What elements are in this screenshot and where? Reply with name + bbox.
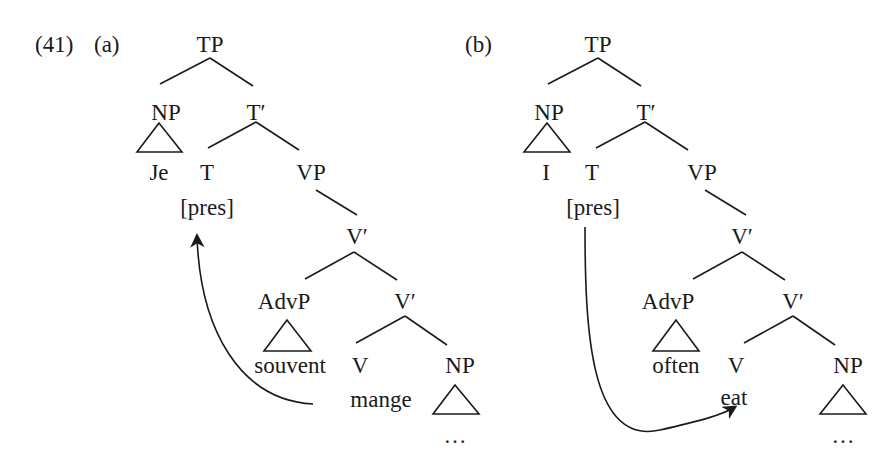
- tree-a-triangle-obj: [433, 385, 479, 414]
- tree-b-edge-vbar-v: [744, 316, 793, 343]
- tree-b: (b) TP NP I T′ T [pres] VP V′ AdvP often…: [465, 32, 866, 448]
- tree-b-node-v: V: [728, 353, 745, 378]
- tree-a-edge-vbar-vbar: [354, 252, 397, 280]
- tree-b-edge-vbar-vbar: [742, 252, 785, 280]
- tree-b-leaf-tense: [pres]: [566, 195, 620, 220]
- tree-a-node-np-subj: NP: [151, 100, 180, 125]
- tree-a-node-vbar-lower: V′: [394, 289, 416, 314]
- tree-a-leaf-verb: mange: [350, 387, 411, 412]
- syntax-tree-diagram: (41) (a) TP NP Je T′ T [pres] VP V′ AdvP…: [0, 0, 888, 461]
- tree-a-leaf-adverb: souvent: [254, 353, 326, 378]
- tree-a-edge-tbar-vp: [256, 122, 299, 150]
- tree-a-node-vp: VP: [296, 160, 325, 185]
- tree-a-edge-vbar-v: [356, 316, 405, 343]
- tree-b-edge-tbar-vp: [645, 122, 688, 150]
- tree-b-edge-vp-vbar: [705, 190, 746, 215]
- tree-b-triangle-obj: [820, 385, 866, 414]
- tree-b-movement-arrow-icon: [585, 227, 735, 431]
- tree-a-node-vbar-upper: V′: [346, 224, 368, 249]
- tree-a-edge-vbar-advp: [305, 252, 354, 279]
- tree-a-node-np-obj: NP: [445, 353, 474, 378]
- tree-b-edge-tbar-t: [596, 122, 645, 148]
- tree-a-triangle-adv: [264, 320, 311, 351]
- tree-b-edge-vbar-np: [793, 316, 835, 345]
- tree-b-leaf-subject: I: [542, 160, 550, 185]
- tree-a-label: (a): [94, 32, 120, 57]
- tree-a-leaf-subject: Je: [149, 160, 168, 185]
- tree-a-edge-vbar-np: [405, 316, 447, 345]
- tree-b-node-np-obj: NP: [833, 353, 862, 378]
- tree-b-node-tbar: T′: [636, 100, 655, 125]
- tree-a-triangle-subj: [137, 123, 182, 152]
- tree-a-edge-tbar-t: [208, 122, 256, 148]
- tree-b-node-vbar-upper: V′: [731, 224, 753, 249]
- tree-a-leaf-tense: [pres]: [180, 195, 234, 220]
- tree-b-label: (b): [465, 32, 492, 57]
- tree-b-leaf-verb: eat: [721, 385, 748, 410]
- tree-b-node-vbar-lower: V′: [782, 289, 804, 314]
- tree-b-node-np-subj: NP: [534, 100, 563, 125]
- tree-b-triangle-adv: [653, 320, 699, 351]
- tree-a: (a) TP NP Je T′ T [pres] VP V′ AdvP souv…: [94, 32, 479, 448]
- tree-b-edge-tp-tbar: [598, 58, 641, 86]
- tree-b-edge-tp-np: [548, 58, 598, 84]
- tree-b-leaf-object: …: [832, 423, 855, 448]
- tree-b-node-advp: AdvP: [642, 289, 694, 314]
- tree-b-triangle-subj: [524, 123, 570, 152]
- tree-a-edge-vp-vbar: [316, 190, 357, 215]
- tree-a-node-tp: TP: [197, 32, 224, 57]
- tree-a-node-t: T: [200, 160, 214, 185]
- tree-a-node-tbar: T′: [246, 100, 265, 125]
- tree-a-edge-tp-tbar: [210, 58, 253, 86]
- tree-b-node-vp: VP: [687, 160, 716, 185]
- tree-b-leaf-adverb: often: [652, 353, 700, 378]
- tree-b-node-tp: TP: [585, 32, 612, 57]
- tree-a-leaf-object: …: [444, 423, 467, 448]
- example-number: (41): [35, 32, 73, 57]
- tree-a-edge-tp-np: [160, 58, 210, 84]
- tree-b-edge-vbar-advp: [693, 252, 742, 279]
- tree-a-movement-arrow-icon: [197, 236, 313, 404]
- tree-a-node-advp: AdvP: [258, 289, 310, 314]
- tree-b-node-t: T: [585, 160, 599, 185]
- tree-a-node-v: V: [352, 353, 369, 378]
